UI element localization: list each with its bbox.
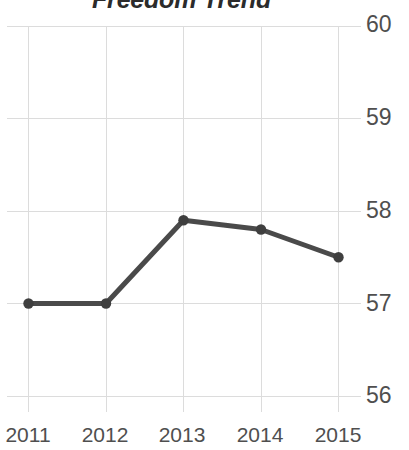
y-axis-tick-label: 58 [366,199,406,222]
data-point-marker [101,298,111,308]
y-axis-tick-label: 56 [366,384,406,407]
data-point-marker [23,298,33,308]
data-point-marker [333,252,343,262]
data-point-marker [178,215,188,225]
x-axis-tick-label: 2013 [150,424,214,445]
x-axis-tick-label: 2015 [306,424,370,445]
y-axis-tick-label: 59 [366,106,406,129]
y-axis-tick-label: 57 [366,292,406,315]
y-axis-tick-label: 60 [366,13,406,36]
plot-svg [0,0,363,412]
x-axis-tick-label: 2014 [228,424,292,445]
freedom-trend-chart: Freedom Trend 6059585756 201120122013201… [0,0,409,450]
data-point-marker [256,224,266,234]
plot-area [0,0,363,412]
x-axis-tick-label: 2012 [73,424,137,445]
x-axis-tick-label: 2011 [0,424,60,445]
